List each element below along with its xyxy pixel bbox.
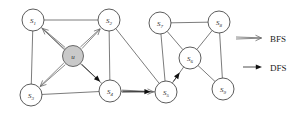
dfs-arrow xyxy=(243,64,262,69)
graph-node-s8[interactable]: S8 xyxy=(208,11,230,33)
legend-label: BFS xyxy=(270,34,286,44)
graph-edge xyxy=(197,31,212,50)
graph-edge xyxy=(198,66,215,82)
graph-node-s2[interactable]: S2 xyxy=(98,9,120,31)
bfs-arrow xyxy=(236,35,262,41)
graph-node-s4[interactable]: S4 xyxy=(99,80,121,102)
graph-edge xyxy=(109,31,110,80)
bfs-arrows-layer xyxy=(40,28,153,94)
legend-item-dfs: DFS xyxy=(243,63,287,73)
graph-node-s7[interactable]: S7 xyxy=(149,12,171,34)
dfs-arrow xyxy=(82,64,100,81)
graph-edge xyxy=(116,29,159,84)
node-label: u xyxy=(71,53,75,61)
bfs-arrow xyxy=(80,29,100,49)
graph-node-s3[interactable]: S3 xyxy=(20,84,42,106)
graph-node-s1[interactable]: S1 xyxy=(22,9,44,31)
graph-node-s5[interactable]: S5 xyxy=(155,81,177,103)
graph-node-s9[interactable]: S9 xyxy=(212,78,234,100)
graph-edge xyxy=(167,31,183,49)
legend-item-bfs: BFS xyxy=(236,34,286,44)
graph-edge xyxy=(161,34,165,81)
graph-edge xyxy=(171,22,208,23)
graph-canvas: uS1S2S3S4S5S6S7S8S9 BFSDFS xyxy=(0,0,307,116)
dfs-arrow xyxy=(173,73,179,82)
graph-node-s6[interactable]: S6 xyxy=(179,47,201,69)
graph-edge xyxy=(31,31,32,84)
graph-edge xyxy=(220,33,223,78)
graph-node-u[interactable]: u xyxy=(63,46,84,67)
legend-layer: BFSDFS xyxy=(236,34,287,73)
dfs-arrow xyxy=(123,89,151,94)
bfs-dfs-graph-figure: uS1S2S3S4S5S6S7S8S9 BFSDFS xyxy=(0,0,307,116)
graph-edge xyxy=(42,92,99,95)
legend-label: DFS xyxy=(270,63,287,73)
bfs-arrow xyxy=(40,63,65,87)
